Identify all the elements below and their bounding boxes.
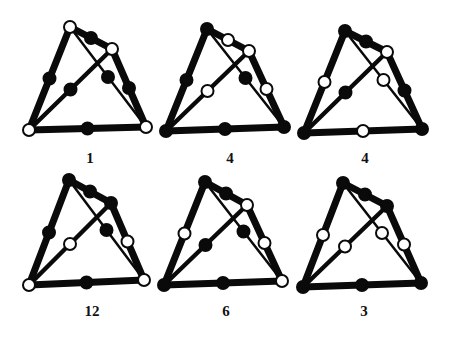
vertex-node-ur [381,46,393,58]
graph-figure-2: 4 [160,23,290,166]
graph-figure-4: 12 [23,174,150,319]
midpoint-node-t-ur [360,36,372,48]
graph-figure-5: 6 [158,176,288,319]
midpoint-node-bl-ur [65,84,77,96]
midpoint-node-bl-br [219,123,231,135]
vertex-node-t [337,177,349,189]
figure-label: 4 [361,150,369,166]
midpoint-node-bl-br [81,277,93,289]
figure-label: 1 [86,150,94,166]
midpoint-node-t-bl [179,228,191,240]
vertex-node-ur [106,43,118,55]
figure-label: 12 [85,303,100,319]
midpoint-node-ur-br [399,85,411,97]
vertex-node-br [415,277,427,289]
midpoint-node-t-ur [84,186,96,198]
midpoint-node-t-br [240,72,252,84]
figure-label: 6 [222,303,230,319]
vertex-node-bl [23,279,35,291]
vertex-node-br [276,275,288,287]
midpoint-node-t-br [101,224,113,236]
vertex-node-t [201,23,213,35]
vertex-node-bl [160,125,172,137]
vertex-node-bl [158,279,170,291]
vertex-node-bl [297,281,309,293]
graph-figure-1: 1 [23,21,152,166]
midpoint-node-ur-br [259,237,271,249]
midpoint-node-bl-ur [64,238,76,250]
midpoint-node-t-bl [43,227,55,239]
midpoint-node-t-bl [317,229,329,241]
figure-label: 3 [360,303,368,319]
midpoint-node-ur-br [261,83,273,95]
midpoint-node-bl-br [357,125,369,137]
midpoint-node-bl-ur [339,241,351,253]
midpoint-node-bl-ur [202,85,214,97]
midpoint-node-t-ur [85,32,97,44]
vertex-node-ur [241,199,253,211]
vertex-node-t [63,174,75,186]
vertex-node-ur [105,197,117,209]
graph-figure-3: 4 [298,25,428,166]
midpoint-node-t-br [376,227,388,239]
vertex-node-t [199,176,211,188]
vertex-node-br [138,274,150,286]
midpoint-node-t-bl [319,76,331,88]
midpoint-node-t-br [238,226,250,238]
midpoint-node-bl-br [217,277,229,289]
midpoint-node-t-bl [44,73,56,85]
midpoint-node-bl-ur [200,239,212,251]
vertex-node-t [64,21,76,33]
vertex-node-bl [298,127,310,139]
diagram-canvas: 1441263 [0,0,451,339]
midpoint-node-t-br [102,71,114,83]
midpoint-node-bl-br [82,123,94,135]
midpoint-node-t-ur [359,189,371,201]
graph-figure-6: 3 [297,177,427,319]
midpoint-node-t-bl [181,74,193,86]
midpoint-node-ur-br [123,82,135,94]
vertex-node-br [140,121,152,133]
midpoint-node-ur-br [398,239,410,251]
midpoint-node-bl-br [356,279,368,291]
vertex-node-br [278,121,290,133]
midpoint-node-t-br [378,74,390,86]
vertex-node-ur [381,200,393,212]
figure-label: 4 [226,150,234,166]
vertex-node-bl [23,124,35,136]
midpoint-node-bl-ur [340,87,352,99]
vertex-node-t [339,25,351,37]
midpoint-node-ur-br [122,236,134,248]
midpoint-node-t-ur [222,34,234,46]
figures-group: 1441263 [23,21,428,319]
vertex-node-br [416,123,428,135]
midpoint-node-t-ur [220,188,232,200]
vertex-node-ur [243,45,255,57]
